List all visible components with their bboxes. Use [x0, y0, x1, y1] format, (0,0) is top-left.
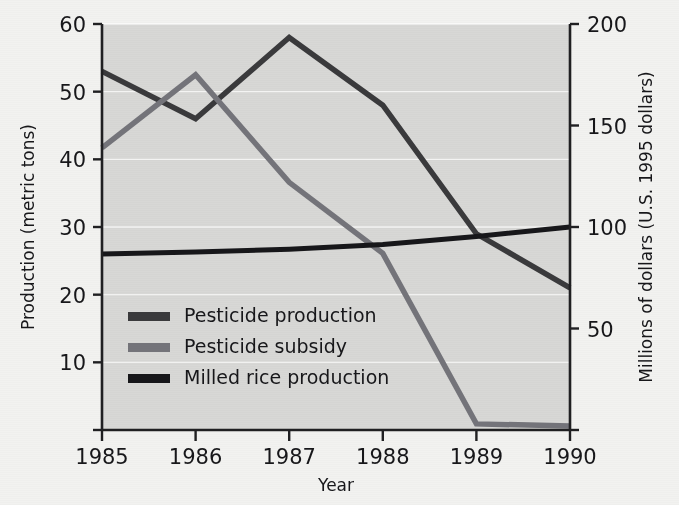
x-axis-ticks: 198519861987198819891990 [75, 430, 596, 469]
x-tick-label: 1988 [356, 445, 409, 469]
y-tick-label: 40 [59, 148, 86, 172]
y2-tick-label: 100 [587, 216, 627, 240]
y-axis-ticks: 102030405060 [59, 13, 102, 430]
chart-figure: 102030405060 50100150200 198519861987198… [0, 0, 679, 505]
legend-swatch [128, 374, 170, 383]
y2-tick-label: 150 [587, 115, 627, 139]
y2-tick-label: 200 [587, 13, 627, 37]
x-tick-label: 1986 [169, 445, 222, 469]
y2-axis-ticks: 50100150200 [570, 13, 627, 430]
y2-axis-title: Millions of dollars (U.S. 1995 dollars) [636, 71, 656, 382]
y-tick-label: 10 [59, 351, 86, 375]
x-tick-label: 1989 [450, 445, 503, 469]
legend-label: Milled rice production [184, 366, 389, 388]
legend-swatch [128, 312, 170, 321]
x-axis-title: Year [317, 475, 354, 495]
y-tick-label: 30 [59, 216, 86, 240]
y2-tick-label: 50 [587, 318, 614, 342]
y-tick-label: 60 [59, 13, 86, 37]
y-tick-label: 20 [59, 284, 86, 308]
line-chart: 102030405060 50100150200 198519861987198… [0, 0, 679, 505]
x-tick-label: 1985 [75, 445, 128, 469]
legend-label: Pesticide subsidy [184, 335, 347, 357]
legend-swatch [128, 343, 170, 352]
legend-label: Pesticide production [184, 304, 377, 326]
x-tick-label: 1990 [543, 445, 596, 469]
y-tick-label: 50 [59, 81, 86, 105]
y-axis-title: Production (metric tons) [18, 124, 38, 330]
x-tick-label: 1987 [262, 445, 315, 469]
